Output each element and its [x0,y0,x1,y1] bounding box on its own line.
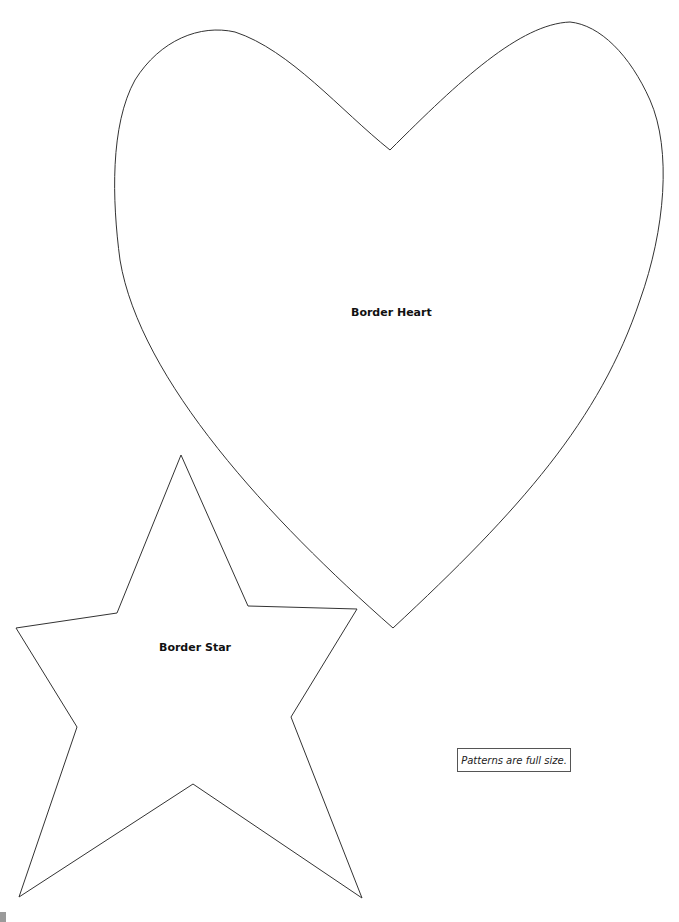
page-corner-mark [0,912,6,922]
pattern-shapes [0,0,679,922]
full-size-note: Patterns are full size. [457,748,571,772]
border-star-outline [16,455,362,898]
border-heart-outline [115,22,664,628]
star-label: Border Star [159,641,231,654]
heart-label: Border Heart [351,306,432,319]
